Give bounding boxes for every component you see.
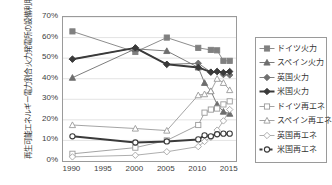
legend-label-1: スペイン火力 — [277, 58, 324, 67]
legend-item-0[interactable]: ドイツ火力 — [259, 41, 324, 56]
series-5 — [69, 76, 232, 134]
y-tick-40: 40% — [24, 74, 58, 82]
legend-marker-1 — [259, 57, 275, 68]
legend-label-0: ドイツ火力 — [277, 44, 317, 53]
series-4 — [70, 99, 232, 157]
chart-legend: ドイツ火力スペイン火力英国火力米国火力ドイツ再エネスペイン再エネ英国再エネ米国再… — [255, 37, 327, 163]
legend-marker-2 — [259, 72, 275, 83]
x-tick-2015: 2015 — [209, 164, 249, 173]
legend-marker-7 — [259, 144, 275, 155]
plot-area — [62, 16, 237, 162]
legend-item-6[interactable]: 英国再エネ — [259, 128, 324, 143]
y-tick-60: 60% — [24, 33, 58, 41]
legend-marker-4 — [259, 101, 275, 112]
legend-item-7[interactable]: 米国再エネ — [259, 143, 324, 158]
y-tick-0: 0% — [24, 156, 58, 164]
legend-item-2[interactable]: 英国火力 — [259, 70, 324, 85]
y-tick-20: 20% — [24, 115, 58, 123]
y-tick-50: 50% — [24, 53, 58, 61]
legend-marker-6 — [259, 130, 275, 141]
legend-item-1[interactable]: スペイン火力 — [259, 56, 324, 71]
legend-label-3: 米国火力 — [277, 87, 309, 96]
y-tick-10: 10% — [24, 135, 58, 143]
legend-marker-5 — [259, 115, 275, 126]
legend-item-3[interactable]: 米国火力 — [259, 85, 324, 100]
legend-marker-0 — [259, 43, 275, 54]
legend-label-6: 英国再エネ — [277, 131, 317, 140]
legend-label-7: 米国再エネ — [277, 145, 317, 154]
y-tick-30: 30% — [24, 94, 58, 102]
plot-svg — [63, 17, 236, 161]
y-tick-70: 70% — [24, 12, 58, 20]
legend-label-5: スペイン再エネ — [277, 116, 332, 125]
legend-marker-3 — [259, 86, 275, 97]
legend-label-4: ドイツ再エネ — [277, 102, 325, 111]
legend-item-4[interactable]: ドイツ再エネ — [259, 99, 324, 114]
legend-label-2: 英国火力 — [277, 73, 309, 82]
legend-item-5[interactable]: スペイン再エネ — [259, 114, 324, 129]
